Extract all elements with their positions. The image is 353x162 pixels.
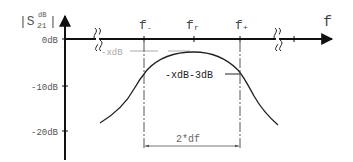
svg-text:-: - (147, 23, 152, 32)
filter-response-diagram: |S 21 dB | 0dB -10dB -20dB f - f r f + f… (0, 0, 353, 162)
x-axis-label: f (323, 14, 332, 31)
x-tick-label-fminus: f - (139, 18, 152, 33)
y-tick-label-0: 0dB (42, 36, 59, 46)
svg-text:+: + (243, 23, 248, 32)
svg-text:f: f (235, 18, 243, 33)
x-tick-label-fplus: f + (235, 18, 248, 33)
y-tick-label-20: -20dB (31, 128, 59, 138)
response-curve (100, 52, 278, 125)
svg-text:|S: |S (19, 14, 35, 29)
svg-text:|: | (49, 14, 57, 29)
svg-text:r: r (194, 23, 199, 32)
peak-level-label: -xdB (101, 48, 123, 58)
bandwidth-label: 2*df (176, 134, 200, 145)
y-axis-label: |S 21 dB | (19, 11, 57, 30)
x-tick-label-fr: f r (186, 18, 199, 33)
svg-text:f: f (139, 18, 147, 33)
svg-text:21: 21 (37, 21, 47, 30)
y-tick-label-10: -10dB (31, 83, 59, 93)
svg-text:f: f (186, 18, 194, 33)
cutoff-level-label: -xdB-3dB (165, 70, 213, 81)
svg-text:dB: dB (38, 11, 46, 19)
